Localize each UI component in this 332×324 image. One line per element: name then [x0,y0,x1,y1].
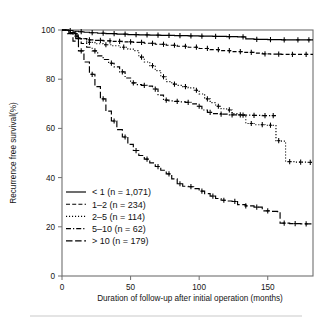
x-tick-label: 0 [60,283,65,292]
y-tick-label: 60 [46,124,56,133]
kaplan-meier-figure: 020406080100 050100150 Recurrence free s… [0,0,332,324]
y-axis-title: Recurrence free survival(%) [9,102,18,204]
x-tick-label: 150 [261,283,275,292]
legend-label-1: < 1 (n = 1,071) [92,187,151,197]
x-tick-label: 50 [126,283,136,292]
legend-label-3: 2–5 (n = 114) [92,212,145,222]
y-tick-label: 20 [46,223,56,232]
x-tick-label: 100 [192,283,206,292]
y-tick-label: 100 [41,26,55,35]
legend-label-4: 5–10 (n = 62) [92,224,146,234]
legend-label-2: 1–2 (n = 234) [92,200,146,210]
y-tick-label: 80 [46,75,56,84]
legend-label-5: > 10 (n = 179) [92,236,149,246]
x-axis-title: Duration of follow-up after initial oper… [97,294,283,303]
y-tick-label: 0 [50,272,55,281]
chart-canvas: 020406080100 050100150 Recurrence free s… [0,0,332,324]
y-tick-label: 40 [46,174,56,183]
